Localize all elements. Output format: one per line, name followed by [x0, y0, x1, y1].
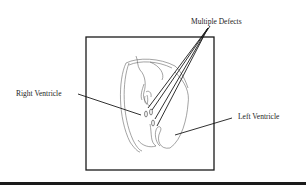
bottom-rule: [0, 182, 306, 185]
left-ventricle-label: Left Ventricle: [238, 113, 279, 121]
multiple-defects-label: Multiple Defects: [191, 18, 242, 26]
right-ventricle-leader: [78, 94, 141, 115]
right-ventricle-label: Right Ventricle: [16, 90, 61, 98]
heart-outline: [120, 56, 188, 152]
